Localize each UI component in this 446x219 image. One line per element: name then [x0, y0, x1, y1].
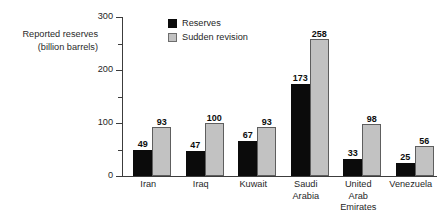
y-tick-label: 0 — [79, 170, 113, 180]
category-label-line: Arab — [332, 191, 385, 203]
bar-value-label: 47 — [190, 140, 200, 150]
bar-value-label: 25 — [400, 152, 410, 162]
bar-value-label: 93 — [262, 117, 272, 127]
bar-value-label: 56 — [419, 136, 429, 146]
y-tick-label: 100 — [79, 117, 113, 127]
bar-group: 4993 — [133, 17, 171, 176]
category-label-line: Venezuela — [385, 179, 438, 191]
category-label-line: Emirates — [332, 202, 385, 214]
bar-group: 173258 — [291, 17, 329, 176]
plot-area: 0100200300 499347100679317325833982556 — [122, 17, 437, 176]
category-label-line: Kuwait — [227, 179, 280, 191]
bar-value-label: 93 — [157, 117, 167, 127]
bar-sudden-revision: 98 — [362, 124, 381, 176]
bar-chart: Reported reserves (billion barrels) Rese… — [0, 0, 446, 219]
y-tick-major — [116, 176, 123, 177]
category-label: SaudiArabia — [280, 179, 333, 202]
x-axis-category-labels: IranIraqKuwaitSaudiArabiaUnitedArabEmira… — [122, 179, 437, 219]
y-tick-label: 200 — [79, 64, 113, 74]
bar-value-label: 98 — [367, 114, 377, 124]
category-label: Iraq — [175, 179, 228, 191]
bar-reserves: 33 — [343, 159, 362, 176]
category-label: UnitedArabEmirates — [332, 179, 385, 214]
category-label-line: Iraq — [175, 179, 228, 191]
bar-reserves: 173 — [291, 84, 310, 176]
bar-value-label: 49 — [138, 139, 148, 149]
category-label-line: Iran — [122, 179, 175, 191]
bar-sudden-revision: 258 — [310, 39, 329, 176]
bar-group: 3398 — [343, 17, 381, 176]
x-axis-line — [122, 176, 437, 177]
bar-value-label: 173 — [293, 73, 308, 83]
category-label: Kuwait — [227, 179, 280, 191]
bar-sudden-revision: 93 — [257, 127, 276, 176]
bar-value-label: 258 — [312, 29, 327, 39]
y-axis-title: Reported reserves (billion barrels) — [4, 28, 98, 54]
bar-group: 6793 — [238, 17, 276, 176]
bar-value-label: 33 — [348, 148, 358, 158]
category-label-line: Saudi — [280, 179, 333, 191]
y-axis-title-line-2: (billion barrels) — [4, 41, 98, 54]
bar-reserves: 49 — [133, 150, 152, 176]
bar-groups: 499347100679317325833982556 — [122, 17, 437, 176]
bar-value-label: 67 — [243, 130, 253, 140]
category-label: Iran — [122, 179, 175, 191]
category-label: Venezuela — [385, 179, 438, 191]
bar-reserves: 67 — [238, 141, 257, 177]
bar-sudden-revision: 100 — [205, 123, 224, 176]
category-label-line: United — [332, 179, 385, 191]
y-axis-title-line-1: Reported reserves — [4, 28, 98, 41]
bar-group: 2556 — [396, 17, 434, 176]
bar-reserves: 25 — [396, 163, 415, 176]
y-tick-label: 300 — [79, 11, 113, 21]
bar-value-label: 100 — [207, 113, 222, 123]
bar-reserves: 47 — [186, 151, 205, 176]
bar-sudden-revision: 93 — [152, 127, 171, 176]
bar-group: 47100 — [186, 17, 224, 176]
category-label-line: Arabia — [280, 191, 333, 203]
bar-sudden-revision: 56 — [415, 146, 434, 176]
